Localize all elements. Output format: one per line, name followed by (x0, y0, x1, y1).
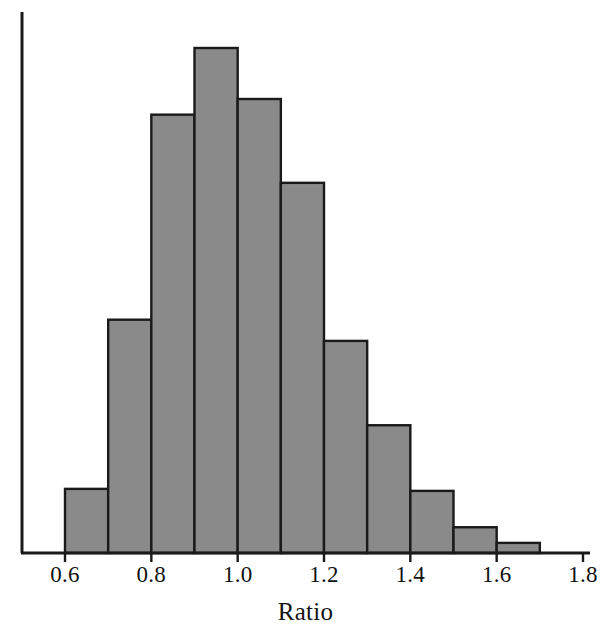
x-tick-label: 1.0 (223, 562, 252, 588)
x-tick-label: 1.8 (568, 562, 597, 588)
histogram-bar (65, 489, 108, 553)
histogram-plot (0, 0, 611, 632)
x-tick-label: 0.8 (137, 562, 166, 588)
x-tick-label: 1.2 (309, 562, 338, 588)
x-axis-title: Ratio (0, 598, 611, 626)
histogram-bar (497, 543, 540, 553)
histogram-bar (195, 48, 238, 553)
histogram-bar (410, 491, 453, 553)
x-tick-label: 1.6 (482, 562, 511, 588)
x-tick-label: 0.6 (50, 562, 79, 588)
histogram-bar (324, 341, 367, 553)
bars-group (65, 48, 540, 553)
histogram-bar (367, 425, 410, 553)
histogram-bar (238, 99, 281, 553)
histogram-bar (108, 320, 151, 553)
histogram-bar (281, 183, 324, 553)
histogram-bar (151, 115, 194, 553)
histogram-bar (454, 527, 497, 553)
histogram-figure: 0.60.81.01.21.41.61.8 Ratio (0, 0, 611, 632)
x-tick-label: 1.4 (396, 562, 425, 588)
